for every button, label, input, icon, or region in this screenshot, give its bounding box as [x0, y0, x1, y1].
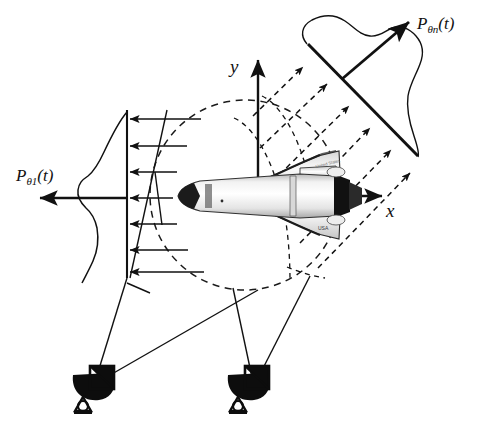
projection-label-theta1-arg: (t) — [37, 166, 53, 185]
projection-label-thetan-arg: (t) — [438, 14, 454, 33]
antenna-right — [228, 366, 270, 414]
projection-label-theta1-P: P — [16, 166, 26, 185]
projection-profile-thetan — [303, 16, 423, 157]
figure-canvas: USA United States y — [0, 0, 493, 431]
sampling-lines-theta1 — [127, 110, 167, 293]
x-axis-label: x — [386, 200, 394, 222]
figure-caption — [0, 421, 493, 431]
projection-label-thetan: Pθn(t) — [417, 14, 454, 35]
figure-vector-layer: USA United States — [0, 0, 493, 431]
svg-text:USA: USA — [318, 225, 329, 231]
radar-sight-lines — [95, 276, 310, 382]
projection-label-thetan-sub: θn — [427, 23, 438, 35]
projection-label-theta1: Pθ1(t) — [16, 166, 53, 187]
projection-arrow-thetan — [342, 22, 409, 79]
projection-label-theta1-sub: θ1 — [26, 175, 37, 187]
antenna-left — [73, 366, 115, 414]
y-axis-label: y — [230, 56, 238, 78]
projection-label-thetan-P: P — [417, 14, 427, 33]
